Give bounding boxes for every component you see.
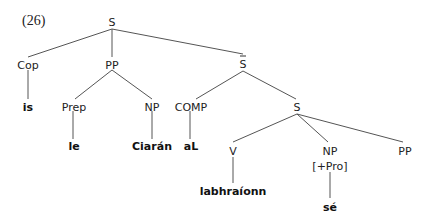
node-v: V [229,145,237,158]
node-s-root: S [109,16,116,29]
edge-s-sbar [112,29,243,54]
syntax-tree: (26) S Cop PP S is Prep NP COMP S le Cia… [0,0,429,220]
node-np-pro: NP [323,145,338,158]
edge-sbar-comp [196,71,243,99]
node-np: NP [145,101,160,114]
word-is: is [23,101,34,114]
edge-pp-np [112,70,152,99]
node-s-inner: S [294,101,301,114]
edge-sbar-s [243,71,296,99]
word-le: le [68,140,79,153]
edge-pp-prep [75,70,112,99]
node-sbar: S [240,58,247,71]
feature-pro: [+Pro] [312,160,347,173]
word-se: sé [323,201,337,214]
word-labhraionn: labhraíonn [200,185,267,198]
word-al: aL [184,140,198,153]
example-number: (26) [22,13,46,29]
node-prep: Prep [62,101,86,114]
edge-s-v [233,114,297,142]
node-comp: COMP [175,101,208,114]
edge-s-cop [28,29,112,57]
node-cop: Cop [17,59,38,72]
word-ciaran: Ciarán [132,140,172,153]
node-pp: PP [105,59,119,72]
node-pp-inner: PP [398,145,412,158]
